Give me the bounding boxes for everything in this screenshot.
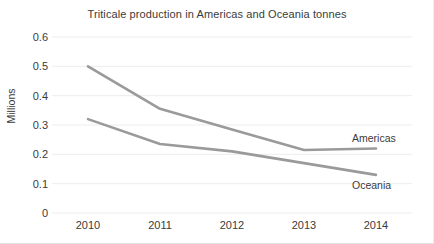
series-label-americas: Americas <box>352 132 396 144</box>
plot-area <box>0 0 434 244</box>
line-chart: Triticale production in Americas and Oce… <box>0 0 434 244</box>
series-label-oceania: Oceania <box>352 179 391 191</box>
series-line <box>88 66 376 150</box>
series-lines <box>88 66 376 175</box>
series-line <box>88 119 376 175</box>
